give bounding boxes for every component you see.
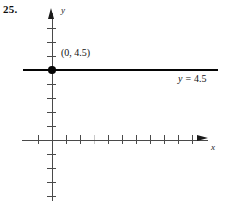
y-intercept-point-marker xyxy=(48,66,56,74)
x-axis-tick xyxy=(136,135,137,144)
equation-label: y=4.5 xyxy=(178,73,207,84)
x-axis-tick xyxy=(164,135,165,144)
x-axis-label: x xyxy=(211,142,215,152)
y-axis-tick xyxy=(47,112,56,113)
y-axis-tick xyxy=(47,196,56,197)
equation-rhs: 4.5 xyxy=(194,73,207,84)
y-intercept-label: (0, 4.5) xyxy=(61,47,90,58)
y-axis-arrow-icon xyxy=(48,8,54,19)
x-axis-tick xyxy=(150,135,151,144)
y-axis-tick xyxy=(47,28,56,29)
y-axis-tick xyxy=(47,126,56,127)
problem-number: 25. xyxy=(3,3,17,15)
equation-lhs: y xyxy=(178,73,182,84)
x-axis-tick xyxy=(122,135,123,144)
y-axis-label: y xyxy=(61,5,65,15)
y-axis-tick xyxy=(47,182,56,183)
x-axis-arrow-icon xyxy=(197,135,208,141)
graph-figure: 25. (0, 4.5) y=4.5 y x xyxy=(0,0,230,201)
x-axis-tick xyxy=(66,135,67,144)
x-axis xyxy=(22,140,208,141)
y-axis-tick xyxy=(47,98,56,99)
x-axis-tick xyxy=(178,135,179,144)
x-axis-tick xyxy=(38,135,39,144)
x-axis-tick xyxy=(108,135,109,144)
equation-operator: = xyxy=(185,73,191,84)
y-axis-tick xyxy=(47,56,56,57)
x-axis-tick xyxy=(94,135,95,144)
x-axis-tick xyxy=(192,135,193,144)
y-axis-tick xyxy=(47,42,56,43)
y-axis-tick xyxy=(47,168,56,169)
y-axis-tick xyxy=(47,154,56,155)
y-axis-tick xyxy=(47,84,56,85)
x-axis-tick xyxy=(80,135,81,144)
